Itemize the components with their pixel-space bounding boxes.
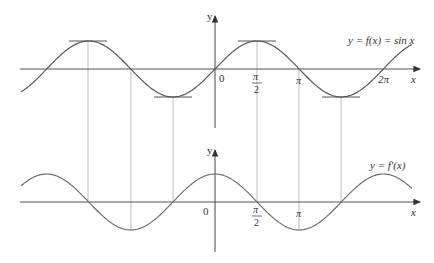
top-x-label: x [410,73,416,85]
derivative-function-label: y = f′(x) [369,159,406,172]
bottom-y-label: y [207,144,213,156]
top-origin-label: 0 [219,72,225,84]
top-graph: y 0 π 2 π 2π x y = f(x) = sin x [20,10,420,128]
bottom-origin-label: 0 [203,205,209,217]
top-pi-half-den: 2 [254,84,259,95]
top-two-pi-label: 2π [378,73,390,85]
bottom-pi-label: π [296,208,302,219]
top-pi-label: π [296,75,302,86]
bottom-pi-half-den: 2 [254,217,259,228]
bottom-x-label: x [410,206,416,218]
sin-function-label: y = f(x) = sin x [347,34,415,47]
bottom-graph: y 0 π 2 π x y = f′(x) [20,144,420,252]
bottom-pi-half-num: π [253,204,259,215]
top-pi-half-num: π [253,71,259,82]
derivative-diagram: y 0 π 2 π 2π x y = f(x) = sin x y 0 π 2 … [0,0,434,263]
top-y-label: y [207,10,213,22]
